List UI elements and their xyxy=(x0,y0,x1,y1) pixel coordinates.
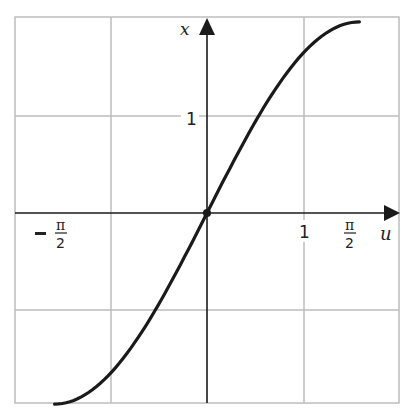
x-tick-minus-pi-over-2: π 2 xyxy=(35,217,67,251)
svg-text:2: 2 xyxy=(345,235,354,251)
svg-text:π: π xyxy=(345,217,354,233)
y-axis-label: x xyxy=(180,19,190,39)
origin-point xyxy=(203,209,211,217)
x-axis-arrow-icon xyxy=(384,205,400,221)
x-tick-1: 1 xyxy=(299,222,310,242)
x-axis-label: u xyxy=(380,223,392,244)
svg-text:π: π xyxy=(56,217,65,233)
axes xyxy=(15,30,388,403)
svg-text:2: 2 xyxy=(56,235,65,251)
y-axis-arrow-icon xyxy=(199,18,215,35)
y-tick-1: 1 xyxy=(186,109,197,129)
x-tick-pi-over-2: π 2 xyxy=(344,217,356,251)
chart: x u 1 1 π 2 π 2 xyxy=(0,0,407,420)
